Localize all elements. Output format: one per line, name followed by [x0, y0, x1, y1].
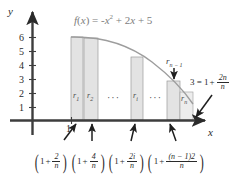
right-equation-pointer — [196, 95, 212, 117]
y-tick-label-1: 1 — [14, 103, 24, 113]
pointer-formula-3 — [131, 124, 135, 141]
y-tick-label-5: 5 — [14, 47, 24, 57]
bar-rn-minus-1 — [167, 81, 180, 120]
formula-4: ( 1 + (n − 1)2 n ) — [146, 153, 205, 171]
riemann-sum-figure: y x 6 5 4 3 2 1 1 f(x) = -x2 + 2x + 5 r1… — [0, 0, 238, 177]
annotation-right-equation: 3 = 1+ 2n n — [190, 74, 230, 91]
x-tick-label-1: 1 — [66, 124, 71, 134]
formula-1: ( 1 + 2 n ) — [33, 153, 69, 171]
bar-label-rn: rn — [181, 95, 187, 105]
y-axis-label: y — [8, 6, 13, 17]
function-label: f(x) = -x2 + 2x + 5 — [74, 14, 152, 26]
pointer-formula-4 — [170, 124, 176, 141]
bar-ri — [131, 57, 143, 120]
y-tick-label-2: 2 — [14, 89, 24, 99]
partition-formula-row: ( 1 + 2 n ) ( 1 + 4 n ) ( 1 + — [0, 146, 238, 177]
y-tick-label-6: 6 — [14, 33, 24, 43]
ellipsis-right: ··· — [149, 93, 162, 103]
bar-r2 — [84, 38, 98, 120]
bar-label-r1: r1 — [73, 92, 79, 102]
annotation-rn-minus-1: rn − 1 — [166, 57, 183, 68]
partition-pointers — [64, 124, 176, 141]
bar-label-r2: r2 — [87, 92, 93, 102]
bar-r1 — [71, 37, 83, 120]
bar-label-ri: ri — [133, 92, 138, 102]
y-tick-label-4: 4 — [14, 61, 24, 71]
x-axis-label: x — [208, 127, 213, 138]
formula-2: ( 1 + 4 n ) — [70, 153, 106, 171]
formula-3: ( 1 + 2i n ) — [107, 153, 145, 171]
ellipsis-left: ··· — [107, 93, 120, 103]
y-tick-label-3: 3 — [14, 75, 24, 85]
